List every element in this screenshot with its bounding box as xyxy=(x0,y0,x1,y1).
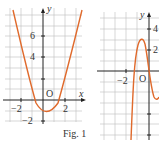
fig1-caption: Fig. 1 xyxy=(63,129,86,139)
fig2-y-label: y xyxy=(140,10,144,20)
fig1-tick-y-neg2: −2 xyxy=(22,116,33,126)
fig1-y-arrow-icon xyxy=(41,8,45,13)
fig2-y-arrow-icon xyxy=(147,12,151,17)
fig1-x-label: x xyxy=(79,89,83,99)
fig1-y-label: y xyxy=(47,4,51,14)
fig2-origin-label: O xyxy=(139,74,146,84)
fig2-tick-y-4: 4 xyxy=(153,24,158,34)
fig1-tick-y-4: 4 xyxy=(30,52,35,62)
fig1-tick-x-2: 2 xyxy=(63,104,68,114)
fig2-tick-y-2: 2 xyxy=(153,45,158,55)
fig2-tick-x-neg2: −2 xyxy=(117,76,128,86)
fig1-origin-label: O xyxy=(46,89,53,99)
fig1-tick-x-neg2: −2 xyxy=(11,104,22,114)
fig1-tick-y-6: 6 xyxy=(30,31,35,41)
